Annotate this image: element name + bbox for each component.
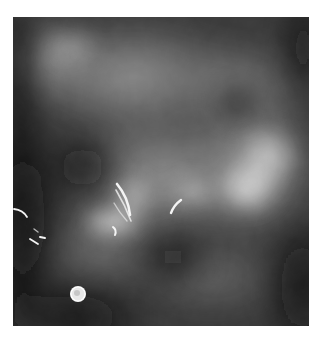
xray-rendering xyxy=(13,17,309,326)
round-marker xyxy=(70,286,86,302)
mammogram-image xyxy=(13,17,309,326)
